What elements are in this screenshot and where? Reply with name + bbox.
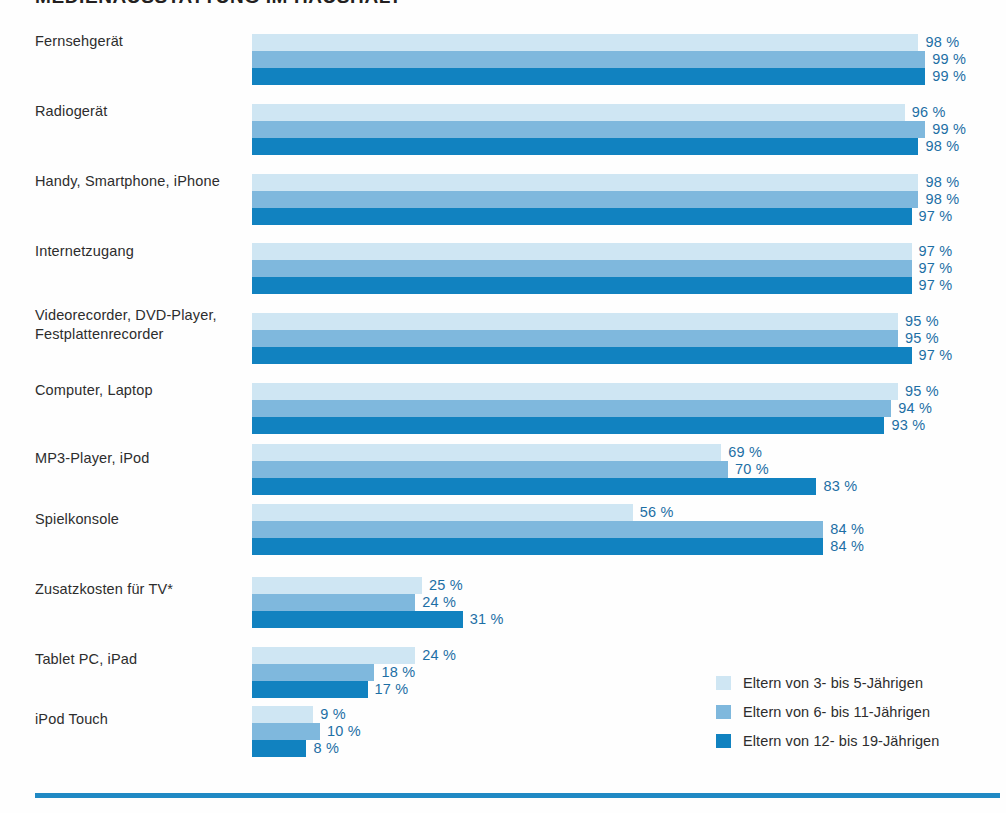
legend-swatch-icon bbox=[716, 734, 731, 748]
bar-line: 99 % bbox=[252, 121, 1006, 138]
category-label: Internetzugang bbox=[35, 242, 240, 261]
bar-value-label: 83 % bbox=[816, 478, 857, 495]
bar-value-label: 84 % bbox=[823, 521, 864, 538]
bar-line: 97 % bbox=[252, 277, 1006, 294]
bar-group: 95 %94 %93 % bbox=[252, 383, 1006, 434]
bar-segment[interactable] bbox=[252, 594, 415, 611]
bar-value-label: 97 % bbox=[912, 347, 953, 364]
bar-group: 97 %97 %97 % bbox=[252, 243, 1006, 294]
bar-segment[interactable] bbox=[252, 191, 918, 208]
bar-group: 25 %24 %31 % bbox=[252, 577, 1006, 628]
bar-segment[interactable] bbox=[252, 478, 816, 495]
bar-segment[interactable] bbox=[252, 51, 925, 68]
bar-value-label: 56 % bbox=[633, 504, 674, 521]
bar-segment[interactable] bbox=[252, 104, 905, 121]
bar-value-label: 97 % bbox=[912, 277, 953, 294]
legend-item[interactable]: Eltern von 3- bis 5-Jährigen bbox=[716, 668, 1006, 697]
category-label: Radiogerät bbox=[35, 102, 240, 121]
bar-value-label: 97 % bbox=[912, 243, 953, 260]
chart-legend: Eltern von 3- bis 5-JährigenEltern von 6… bbox=[716, 668, 1006, 755]
legend-item[interactable]: Eltern von 12- bis 19-Jährigen bbox=[716, 726, 1006, 755]
bar-value-label: 98 % bbox=[918, 174, 959, 191]
bar-group: 98 %99 %99 % bbox=[252, 34, 1006, 85]
bar-segment[interactable] bbox=[252, 68, 925, 85]
bar-segment[interactable] bbox=[252, 260, 912, 277]
bar-segment[interactable] bbox=[252, 417, 884, 434]
bar-segment[interactable] bbox=[252, 34, 918, 51]
bar-segment[interactable] bbox=[252, 313, 898, 330]
category-label: Handy, Smartphone, iPhone bbox=[35, 172, 240, 191]
bar-value-label: 95 % bbox=[898, 383, 939, 400]
bar-line: 97 % bbox=[252, 260, 1006, 277]
footer-rule bbox=[35, 793, 1000, 798]
category-label: Fernsehgerät bbox=[35, 32, 240, 51]
bar-segment[interactable] bbox=[252, 611, 463, 628]
bar-segment[interactable] bbox=[252, 243, 912, 260]
bar-value-label: 10 % bbox=[320, 723, 361, 740]
bar-line: 97 % bbox=[252, 347, 1006, 364]
legend-item-label: Eltern von 3- bis 5-Jährigen bbox=[743, 675, 923, 691]
bar-group: 56 %84 %84 % bbox=[252, 504, 1006, 555]
bar-line: 95 % bbox=[252, 383, 1006, 400]
bar-segment[interactable] bbox=[252, 208, 912, 225]
bar-segment[interactable] bbox=[252, 121, 925, 138]
bar-line: 98 % bbox=[252, 191, 1006, 208]
bar-value-label: 31 % bbox=[463, 611, 504, 628]
bar-line: 99 % bbox=[252, 68, 1006, 85]
bar-segment[interactable] bbox=[252, 138, 918, 155]
bar-line: 31 % bbox=[252, 611, 1006, 628]
bar-value-label: 25 % bbox=[422, 577, 463, 594]
bar-value-label: 17 % bbox=[368, 681, 409, 698]
bar-segment[interactable] bbox=[252, 347, 912, 364]
bar-segment[interactable] bbox=[252, 706, 313, 723]
bar-segment[interactable] bbox=[252, 577, 422, 594]
bar-value-label: 97 % bbox=[912, 260, 953, 277]
chart-page: MEDIENAUSSTATTUNG IM HAUSHALT Fernsehger… bbox=[0, 0, 1006, 813]
bar-line: 83 % bbox=[252, 478, 1006, 495]
bar-segment[interactable] bbox=[252, 538, 823, 555]
bar-line: 98 % bbox=[252, 34, 1006, 51]
bar-value-label: 69 % bbox=[721, 444, 762, 461]
bar-segment[interactable] bbox=[252, 740, 306, 757]
bar-value-label: 99 % bbox=[925, 68, 966, 85]
bar-line: 96 % bbox=[252, 104, 1006, 121]
category-label: MP3-Player, iPod bbox=[35, 449, 240, 468]
bar-segment[interactable] bbox=[252, 461, 728, 478]
bar-group: 95 %95 %97 % bbox=[252, 313, 1006, 364]
bar-value-label: 18 % bbox=[374, 664, 415, 681]
bar-segment[interactable] bbox=[252, 400, 891, 417]
bar-group: 98 %98 %97 % bbox=[252, 174, 1006, 225]
bar-value-label: 96 % bbox=[905, 104, 946, 121]
bar-segment[interactable] bbox=[252, 174, 918, 191]
bar-group: 69 %70 %83 % bbox=[252, 444, 1006, 495]
bar-line: 24 % bbox=[252, 647, 1006, 664]
bar-value-label: 9 % bbox=[313, 706, 346, 723]
legend-item[interactable]: Eltern von 6- bis 11-Jährigen bbox=[716, 697, 1006, 726]
bar-line: 98 % bbox=[252, 174, 1006, 191]
category-label: Spielkonsole bbox=[35, 510, 240, 529]
legend-item-label: Eltern von 6- bis 11-Jährigen bbox=[743, 704, 930, 720]
bar-segment[interactable] bbox=[252, 647, 415, 664]
bar-value-label: 24 % bbox=[415, 594, 456, 611]
bar-line: 93 % bbox=[252, 417, 1006, 434]
bar-segment[interactable] bbox=[252, 504, 633, 521]
bar-value-label: 98 % bbox=[918, 34, 959, 51]
bar-line: 95 % bbox=[252, 313, 1006, 330]
bar-value-label: 84 % bbox=[823, 538, 864, 555]
bar-segment[interactable] bbox=[252, 723, 320, 740]
bar-line: 94 % bbox=[252, 400, 1006, 417]
bar-value-label: 8 % bbox=[306, 740, 339, 757]
bar-segment[interactable] bbox=[252, 330, 898, 347]
bar-segment[interactable] bbox=[252, 277, 912, 294]
bar-segment[interactable] bbox=[252, 521, 823, 538]
bar-line: 56 % bbox=[252, 504, 1006, 521]
bar-segment[interactable] bbox=[252, 681, 368, 698]
bar-line: 69 % bbox=[252, 444, 1006, 461]
bar-segment[interactable] bbox=[252, 444, 721, 461]
category-label: Zusatzkosten für TV* bbox=[35, 580, 240, 599]
category-label: Computer, Laptop bbox=[35, 381, 240, 400]
bar-segment[interactable] bbox=[252, 664, 374, 681]
bar-value-label: 98 % bbox=[918, 191, 959, 208]
bar-segment[interactable] bbox=[252, 383, 898, 400]
bar-line: 70 % bbox=[252, 461, 1006, 478]
